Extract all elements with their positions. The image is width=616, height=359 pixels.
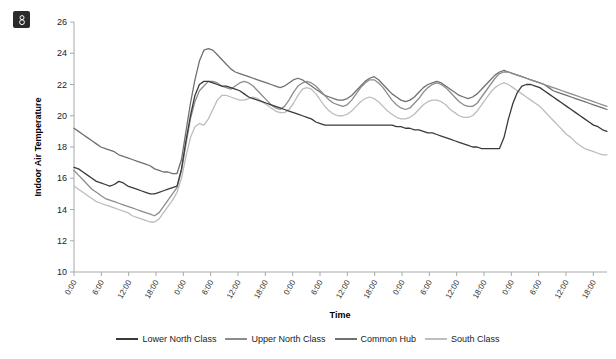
x-tick-label: 18:00 bbox=[362, 278, 380, 300]
x-tick-label: 6:00 bbox=[309, 278, 325, 296]
y-tick-label: 20 bbox=[57, 111, 67, 121]
y-tick-label: 10 bbox=[57, 267, 67, 277]
series-line bbox=[74, 49, 607, 174]
x-tick-label: 12:00 bbox=[116, 278, 134, 300]
legend-swatch-icon bbox=[225, 338, 247, 340]
x-tick-label: 12:00 bbox=[225, 278, 243, 300]
legend-label: Common Hub bbox=[361, 334, 417, 344]
legend-item[interactable]: South Class bbox=[425, 334, 500, 344]
y-tick-label: 14 bbox=[57, 205, 67, 215]
x-axis-ticks: 0:006:0012:0018:000:006:0012:0018:000:00… bbox=[63, 272, 598, 300]
legend-item[interactable]: Common Hub bbox=[335, 334, 417, 344]
y-tick-label: 16 bbox=[57, 173, 67, 183]
chart-page: 101214161820222426 0:006:0012:0018:000:0… bbox=[0, 0, 616, 359]
x-tick-label: 0:00 bbox=[500, 278, 516, 296]
x-tick-label: 0:00 bbox=[391, 278, 407, 296]
legend-swatch-icon bbox=[425, 338, 447, 340]
x-tick-label: 12:00 bbox=[553, 278, 571, 300]
x-tick-label: 6:00 bbox=[200, 278, 216, 296]
series-line bbox=[74, 83, 607, 222]
y-axis-ticks: 101214161820222426 bbox=[57, 17, 74, 277]
line-chart: 101214161820222426 0:006:0012:0018:000:0… bbox=[0, 0, 616, 359]
chart-series-group bbox=[74, 49, 607, 222]
legend-swatch-icon bbox=[116, 338, 138, 340]
x-tick-label: 12:00 bbox=[444, 278, 462, 300]
y-tick-label: 24 bbox=[57, 48, 67, 58]
legend-item[interactable]: Upper North Class bbox=[225, 334, 325, 344]
x-tick-label: 0:00 bbox=[172, 278, 188, 296]
y-tick-label: 18 bbox=[57, 142, 67, 152]
x-tick-label: 18:00 bbox=[143, 278, 161, 300]
y-axis-title: Indoor Air Temperature bbox=[33, 97, 43, 196]
x-tick-label: 6:00 bbox=[90, 278, 106, 296]
x-tick-label: 0:00 bbox=[282, 278, 298, 296]
chart-axes bbox=[74, 22, 607, 272]
legend-label: South Class bbox=[451, 334, 500, 344]
legend-label: Upper North Class bbox=[251, 334, 325, 344]
legend-item[interactable]: Lower North Class bbox=[116, 334, 216, 344]
y-tick-label: 22 bbox=[57, 80, 67, 90]
legend-label: Lower North Class bbox=[142, 334, 216, 344]
x-tick-label: 0:00 bbox=[63, 278, 79, 296]
y-tick-label: 12 bbox=[57, 236, 67, 246]
chart-svg: 101214161820222426 0:006:0012:0018:000:0… bbox=[0, 0, 616, 330]
x-tick-label: 18:00 bbox=[252, 278, 270, 300]
y-tick-label: 26 bbox=[57, 17, 67, 27]
x-tick-label: 12:00 bbox=[334, 278, 352, 300]
x-tick-label: 6:00 bbox=[418, 278, 434, 296]
chart-legend: Lower North ClassUpper North ClassCommon… bbox=[0, 330, 616, 348]
x-tick-label: 6:00 bbox=[528, 278, 544, 296]
legend-swatch-icon bbox=[335, 338, 357, 340]
x-axis-title: Time bbox=[330, 310, 351, 320]
x-tick-label: 18:00 bbox=[580, 278, 598, 300]
x-tick-label: 18:00 bbox=[471, 278, 489, 300]
